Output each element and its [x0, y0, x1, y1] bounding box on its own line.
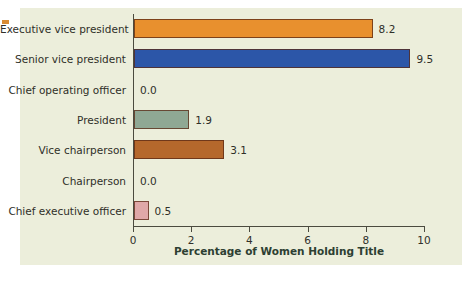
x-axis-line: [133, 226, 425, 227]
bar: [134, 19, 373, 38]
x-tick-mark: [249, 227, 250, 232]
x-tick-mark: [424, 227, 425, 232]
bar-value-label: 9.5: [416, 44, 433, 74]
x-axis-title: Percentage of Women Holding Title: [133, 245, 425, 257]
bar-value-label: 0.0: [140, 75, 157, 105]
bar-value-label: 0.0: [140, 166, 157, 196]
x-tick-mark: [133, 227, 134, 232]
x-tick-mark: [308, 227, 309, 232]
bar-row: President1.9: [0, 105, 462, 135]
bar-row: Chief operating officer0.0: [0, 75, 462, 105]
plot-area: 0246810 Executive vice president8.2Senio…: [0, 0, 462, 283]
chart-figure: 0246810 Executive vice president8.2Senio…: [0, 0, 462, 283]
category-label: Chief executive officer: [0, 196, 126, 226]
x-tick-mark: [366, 227, 367, 232]
category-label: Senior vice president: [0, 44, 126, 74]
category-label: Executive vice president: [0, 14, 126, 44]
bar-value-label: 8.2: [379, 14, 396, 44]
bar-row: Executive vice president8.2: [0, 14, 462, 44]
bar-row: Vice chairperson3.1: [0, 135, 462, 165]
bar: [134, 201, 149, 220]
bar-row: Senior vice president9.5: [0, 44, 462, 74]
bar-row: Chief executive officer0.5: [0, 196, 462, 226]
category-label: Vice chairperson: [0, 135, 126, 165]
bar-value-label: 1.9: [195, 105, 212, 135]
bar-value-label: 3.1: [230, 135, 247, 165]
bar-row: Chairperson0.0: [0, 166, 462, 196]
bar: [134, 140, 224, 159]
bar: [134, 110, 189, 129]
category-label: Chief operating officer: [0, 75, 126, 105]
bar-value-label: 0.5: [155, 196, 172, 226]
bar: [134, 49, 410, 68]
category-label: Chairperson: [0, 166, 126, 196]
x-tick-mark: [191, 227, 192, 232]
category-label: President: [0, 105, 126, 135]
